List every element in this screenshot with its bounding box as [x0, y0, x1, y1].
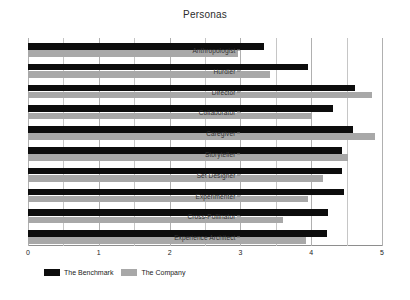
bar-the-company-storyteller	[28, 154, 348, 161]
category-label-director: Director	[212, 88, 236, 95]
chart-legend: The BenchmarkThe Company	[44, 269, 185, 276]
category-tick	[237, 133, 240, 134]
bar-row	[28, 85, 382, 99]
legend-label: The Company	[141, 269, 185, 276]
bar-the-company-experimenter	[28, 196, 308, 203]
category-label-hurdler: Hurdler	[213, 67, 235, 74]
chart-container: Personas AnthropologistHurdlerDirectorCo…	[0, 0, 410, 300]
bar-the-company-cross-pollinator	[28, 217, 283, 224]
legend-swatch-icon	[121, 269, 137, 276]
plot-area: AnthropologistHurdlerDirectorCollaborato…	[28, 38, 382, 246]
category-label-experimenter: Experimenter	[196, 192, 236, 199]
bar-the-benchmark-director	[28, 85, 355, 92]
category-label-anthropologist: Anthropologist	[192, 46, 235, 53]
category-label-set-designer: Set Designer	[197, 171, 236, 178]
bar-the-company-collaborator	[28, 113, 312, 120]
bar-the-benchmark-storyteller	[28, 147, 342, 154]
category-tick	[237, 174, 240, 175]
x-tick-label-2: 2	[168, 249, 172, 256]
bar-row	[28, 126, 382, 140]
bar-the-benchmark-set-designer	[28, 168, 342, 175]
legend-item-the-benchmark[interactable]: The Benchmark	[44, 269, 113, 276]
legend-swatch-icon	[44, 269, 60, 276]
category-tick	[237, 216, 240, 217]
bar-the-company-experience-architect	[28, 237, 306, 244]
bar-the-benchmark-caregiver	[28, 126, 353, 133]
x-tick-label-5: 5	[380, 249, 384, 256]
category-tick	[237, 91, 240, 92]
category-tick	[237, 153, 240, 154]
category-label-cross-pollinator: Cross-Pollinator	[188, 213, 236, 220]
category-label-collaborator: Collaborator	[199, 109, 236, 116]
category-tick	[237, 49, 240, 50]
chart-title: Personas	[0, 9, 410, 20]
category-tick	[237, 195, 240, 196]
bar-the-company-caregiver	[28, 133, 375, 140]
x-tick-label-0: 0	[26, 249, 30, 256]
gridline-5	[382, 38, 383, 246]
bar-series-group: AnthropologistHurdlerDirectorCollaborato…	[28, 38, 382, 246]
bar-the-company-director	[28, 92, 372, 99]
category-label-caregiver: Caregiver	[206, 130, 235, 137]
bar-the-company-set-designer	[28, 175, 323, 182]
x-tick-label-3: 3	[238, 249, 242, 256]
bar-the-benchmark-collaborator	[28, 105, 333, 112]
bar-the-benchmark-hurdler	[28, 64, 308, 71]
x-tick-label-1: 1	[97, 249, 101, 256]
x-tick-label-4: 4	[309, 249, 313, 256]
bar-row	[28, 64, 382, 78]
category-tick	[237, 70, 240, 71]
category-label-experience-architect: Experience Architect	[174, 234, 235, 241]
bar-the-benchmark-cross-pollinator	[28, 209, 328, 216]
legend-label: The Benchmark	[64, 269, 113, 276]
category-tick	[237, 112, 240, 113]
bar-the-benchmark-experimenter	[28, 189, 344, 196]
legend-item-the-company[interactable]: The Company	[121, 269, 185, 276]
category-tick	[237, 237, 240, 238]
category-label-storyteller: Storyteller	[205, 150, 235, 157]
